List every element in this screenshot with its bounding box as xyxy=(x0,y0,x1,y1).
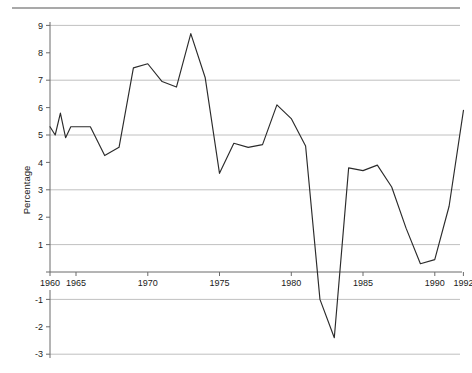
y-axis-ticks xyxy=(46,25,50,354)
data-series-line xyxy=(50,34,463,338)
y-tick-label: 5 xyxy=(38,130,43,140)
x-tick-label: 1970 xyxy=(138,278,158,288)
chart-figure: 987654321-1-2-3 196019651970197519801985… xyxy=(0,0,472,373)
x-tick-label: 1985 xyxy=(353,278,373,288)
y-tick-label: 6 xyxy=(38,103,43,113)
x-tick-label: 1980 xyxy=(281,278,301,288)
y-tick-label: -3 xyxy=(35,349,43,359)
x-tick-label: 1965 xyxy=(66,278,86,288)
y-axis-title-text: Percentage xyxy=(21,166,32,215)
x-tick-label: 1990 xyxy=(425,278,445,288)
y-axis-title: Percentage xyxy=(21,166,32,215)
y-tick-label: 3 xyxy=(38,185,43,195)
series-percentage-path xyxy=(50,34,463,338)
gridlines-group xyxy=(50,25,460,354)
x-axis-tick-labels: 19601965197019751980198519901992 xyxy=(40,278,472,288)
y-axis-tick-labels: 987654321-1-2-3 xyxy=(35,21,43,360)
x-tick-label: 1992 xyxy=(453,278,472,288)
line-chart-svg: 987654321-1-2-3 196019651970197519801985… xyxy=(0,0,472,373)
y-tick-label: 1 xyxy=(38,240,43,250)
y-tick-label: -2 xyxy=(35,322,43,332)
y-tick-label: 4 xyxy=(38,158,43,168)
x-tick-label: 1960 xyxy=(40,278,60,288)
y-tick-label: 2 xyxy=(38,212,43,222)
y-tick-label: -1 xyxy=(35,295,43,305)
x-axis-ticks xyxy=(50,272,463,276)
y-tick-label: 9 xyxy=(38,21,43,31)
y-tick-label: 8 xyxy=(38,48,43,58)
x-tick-label: 1975 xyxy=(209,278,229,288)
y-tick-label: 7 xyxy=(38,75,43,85)
